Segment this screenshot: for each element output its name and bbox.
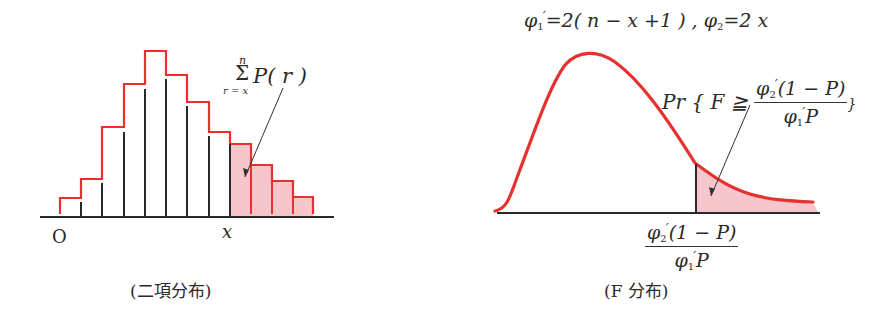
critical-value-label: φ2′(1 − P) φ1′P	[645, 222, 738, 272]
phi1-symbol: φ	[524, 9, 537, 31]
f-distribution-panel: φ1′=2( n − x +1 ) , φ2=2 x Pr { F ≧ φ2′(…	[440, 0, 885, 336]
phi2-definition: =2 x	[723, 9, 768, 31]
axis-den-rest: P	[696, 249, 709, 271]
binomial-caption: (二項分布)	[130, 283, 211, 300]
axis-num-phi: φ	[647, 221, 660, 243]
sigma-symbol: Σ	[235, 63, 249, 83]
prob-suffix: }	[847, 96, 856, 112]
num-phi: φ	[756, 77, 769, 99]
den-phi: φ	[784, 105, 797, 127]
num-rest: (1 − P)	[778, 77, 846, 99]
f-caption: (F 分布)	[604, 283, 668, 300]
x-marker-label: x	[222, 223, 232, 241]
sum-lower-limit: r = x	[223, 86, 248, 96]
den-rest: P	[805, 105, 818, 127]
phi1-definition: =2( n − x +1 ) ,	[546, 9, 698, 31]
tail-probability-label: Pr { F ≧ φ2′(1 − P) φ1′P }	[662, 78, 856, 128]
bar-dividers	[81, 79, 230, 217]
sum-term: P( r )	[253, 66, 307, 87]
phi2-symbol: φ	[704, 9, 717, 31]
axis-den-phi: φ	[674, 249, 687, 271]
origin-label: O	[52, 228, 67, 246]
axis-num-rest: (1 − P)	[669, 221, 737, 243]
prob-prefix: Pr { F ≧	[662, 90, 748, 114]
sum-pointer	[245, 88, 283, 177]
binomial-panel: O x n Σ r = x P( r ) (二項分布)	[0, 0, 360, 336]
df-formula: φ1′=2( n − x +1 ) , φ2=2 x	[524, 10, 768, 32]
